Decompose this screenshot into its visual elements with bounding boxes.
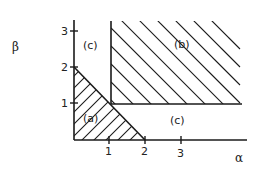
x-tick-label-2: 2 xyxy=(141,145,148,158)
y-tick-label-3: 3 xyxy=(61,25,68,38)
x-tick-label-1: 1 xyxy=(105,145,112,158)
x-tick-label-3: 3 xyxy=(177,147,184,160)
y-tick-label-1: 1 xyxy=(61,97,68,110)
region-label-c-lower: (c) xyxy=(170,114,185,127)
region-diagram: 3 2 1 1 2 3 β α (c) (b) (a) (c) xyxy=(0,0,258,172)
x-axis-label: α xyxy=(235,151,243,165)
region-b-hatch xyxy=(111,0,240,172)
region-label-c-upper: (c) xyxy=(83,39,98,52)
y-tick-label-2: 2 xyxy=(61,61,68,74)
region-label-a: (a) xyxy=(83,112,98,125)
region-label-b: (b) xyxy=(174,38,190,51)
y-axis-label: β xyxy=(12,40,19,54)
